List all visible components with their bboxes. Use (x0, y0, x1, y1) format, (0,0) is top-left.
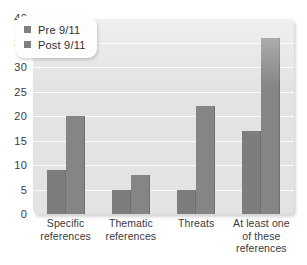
legend-item-0: Pre 9/11 (24, 22, 85, 37)
bar-pre-3 (242, 131, 261, 214)
x-axis-label-line: references (223, 242, 300, 255)
y-axis-tick-30: 30 (14, 61, 27, 73)
legend-swatch-icon-1 (24, 41, 31, 48)
bar-post-3 (261, 38, 280, 214)
bar-post-0 (66, 116, 85, 214)
bar-post-1 (131, 175, 150, 214)
y-axis-tick-5: 5 (21, 184, 27, 196)
y-axis-tick-20: 20 (14, 110, 27, 122)
legend-item-1: Post 9/11 (24, 37, 85, 52)
legend-label-0: Pre 9/11 (38, 24, 80, 36)
x-axis-label-line: references (92, 230, 169, 243)
x-axis-label-line: of these (223, 230, 300, 243)
bar-pre-0 (47, 170, 66, 214)
bar-post-2 (196, 106, 215, 214)
chart-legend: Pre 9/11Post 9/11 (15, 16, 97, 58)
bar-pre-1 (112, 190, 131, 215)
y-axis-tick-25: 25 (14, 86, 27, 98)
legend-label-1: Post 9/11 (38, 39, 85, 51)
y-axis-tick-15: 15 (14, 135, 27, 147)
x-axis-label-3: At least oneof thesereferences (223, 217, 300, 255)
bar-pre-2 (177, 190, 196, 215)
x-axis-labels: SpecificreferencesThematicreferencesThre… (33, 217, 294, 263)
legend-swatch-icon-0 (24, 26, 31, 33)
x-axis-label-line: At least one (223, 217, 300, 230)
bar-chart: 4035302520151050 Pre 9/11Post 9/11 Speci… (0, 0, 307, 265)
y-axis-tick-10: 10 (14, 159, 27, 171)
